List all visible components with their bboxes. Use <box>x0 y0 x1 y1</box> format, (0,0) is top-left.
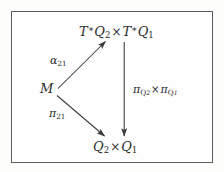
projection-times: × <box>150 84 160 95</box>
projection-subsub-2: 1 <box>174 89 178 96</box>
edge-label-alpha-21: α21 <box>50 55 67 67</box>
node-cotangent-product: T∗Q2×T∗Q1 <box>79 24 154 40</box>
node-bottom-times: × <box>109 140 121 154</box>
pi21-subscript: 21 <box>56 112 65 121</box>
node-top-t2: T <box>122 24 131 39</box>
node-bottom-sub2: 1 <box>132 145 137 155</box>
node-bottom-q1: Q <box>93 139 104 154</box>
node-top-sub2: 1 <box>148 30 153 40</box>
node-bottom-q2: Q <box>121 139 132 154</box>
alpha-subscript: 21 <box>57 59 66 68</box>
node-top-q2: Q <box>138 24 149 39</box>
edge-label-projection-product: πQ2×πQ1 <box>133 84 178 96</box>
node-top-q1: Q <box>94 24 105 39</box>
node-base-product: Q2×Q1 <box>93 140 137 155</box>
node-top-times: × <box>110 25 122 39</box>
edge-label-pi-21: π21 <box>49 108 65 120</box>
projection-symbol-2: π <box>161 83 168 96</box>
diagram-figure: T∗Q2×T∗Q1 M Q2×Q1 α21 π21 πQ2×πQ1 <box>0 0 224 172</box>
node-m-symbol: M <box>40 81 53 96</box>
node-top-t1: T <box>79 24 88 39</box>
node-manifold-m: M <box>40 82 53 95</box>
